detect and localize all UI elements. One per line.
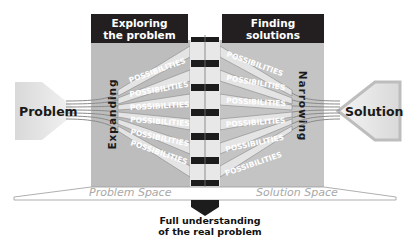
solution-label: Solution (345, 104, 404, 119)
problem-solution-diagram: POSSIBILITIES POSSIBILITIES POSSIBILITIE… (0, 0, 410, 245)
problem-label: Problem (19, 104, 78, 119)
down-arrow-icon (191, 200, 219, 216)
diagram-graphics: POSSIBILITIES POSSIBILITIES POSSIBILITIE… (0, 0, 410, 245)
solution-space-label: Solution Space (256, 186, 338, 199)
center-column (190, 35, 220, 205)
header-exploring-line2: the problem (103, 29, 175, 41)
caption-line2: of the real problem (150, 226, 270, 237)
header-exploring: Exploring the problem (91, 14, 188, 43)
narrowing-label: Narrowing (297, 71, 309, 142)
caption-line1: Full understanding (150, 215, 270, 226)
space-bar (14, 187, 396, 200)
header-finding-solutions: Finding solutions (222, 14, 324, 43)
expanding-label: Expanding (106, 78, 118, 149)
problem-space-label: Problem Space (89, 186, 171, 199)
header-exploring-line1: Exploring (111, 17, 167, 29)
header-finding-label: Finding solutions (222, 17, 324, 41)
understanding-caption: Full understanding of the real problem (150, 215, 270, 237)
